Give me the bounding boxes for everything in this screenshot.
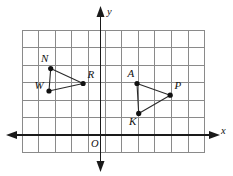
vertex-N <box>48 66 53 71</box>
triangle-AKP-outline <box>137 84 170 114</box>
vertex-R <box>81 81 86 86</box>
point-label-R: R <box>87 68 95 80</box>
y-axis-label: y <box>106 6 112 17</box>
triangle-WNR-outline <box>49 69 83 91</box>
coordinate-plane-svg: y x O W N R A P K <box>0 0 233 176</box>
vertex-W <box>46 88 51 93</box>
point-label-P: P <box>174 79 182 91</box>
vertex-A <box>134 81 139 86</box>
point-label-N: N <box>40 52 49 64</box>
point-label-A: A <box>127 67 135 79</box>
point-label-W: W <box>35 79 45 91</box>
y-axis-arrow-up-icon <box>97 6 105 17</box>
y-axis-arrow-down-icon <box>97 161 105 172</box>
triangle-WNR: W N R <box>35 52 95 94</box>
point-label-K: K <box>128 115 137 127</box>
origin-label: O <box>91 138 99 149</box>
vertex-K <box>136 111 141 116</box>
x-axis-arrow-left-icon <box>6 131 17 139</box>
x-axis-label: x <box>220 125 226 136</box>
vertex-P <box>168 93 173 98</box>
x-axis-arrow-right-icon <box>209 131 220 139</box>
coordinate-figure: y x O W N R A P K <box>0 0 233 176</box>
